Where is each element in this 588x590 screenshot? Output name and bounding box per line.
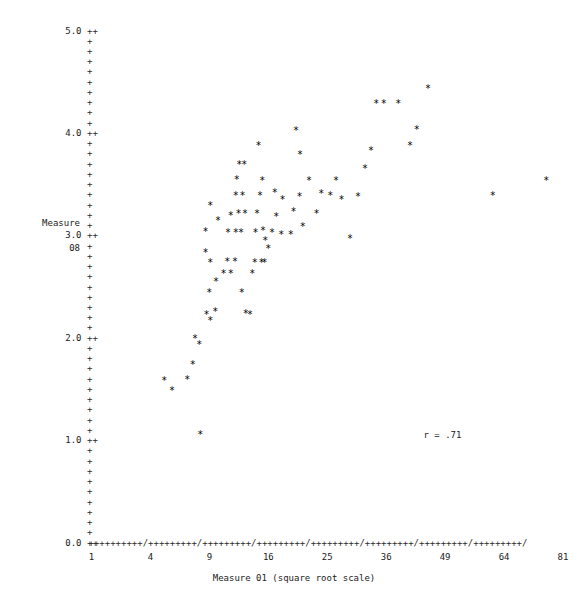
data-point: * xyxy=(368,146,374,156)
y-axis-minor-tick: + xyxy=(87,416,92,425)
y-axis-minor-tick: + xyxy=(87,78,92,87)
data-point: * xyxy=(373,99,379,109)
data-point: * xyxy=(224,257,230,267)
data-point: * xyxy=(260,226,266,236)
data-point: * xyxy=(327,191,333,201)
y-axis-minor-tick: + xyxy=(87,477,92,486)
data-point: * xyxy=(221,269,227,279)
y-axis-minor-tick: + xyxy=(87,180,92,189)
data-point: * xyxy=(293,126,299,136)
y-axis-minor-tick: + xyxy=(87,313,92,322)
data-point: * xyxy=(207,258,213,268)
data-point: * xyxy=(232,257,238,267)
y-axis-minor-tick: + xyxy=(87,323,92,332)
data-point: * xyxy=(381,99,387,109)
data-point: * xyxy=(272,188,278,198)
x-axis-title: Measure 01 (square root scale) xyxy=(0,574,588,583)
data-point: * xyxy=(184,375,190,385)
y-axis-minor-tick: + xyxy=(87,262,92,271)
x-axis-tick-label: 1 xyxy=(72,553,112,562)
y-axis-minor-tick: + xyxy=(87,190,92,199)
data-point: * xyxy=(238,228,244,238)
data-point: * xyxy=(347,234,353,244)
data-point: * xyxy=(213,277,219,287)
y-axis-minor-tick: + xyxy=(87,119,92,128)
data-point: * xyxy=(235,209,241,219)
y-axis-tick-label: 2.0 xyxy=(30,334,82,343)
y-axis-minor-tick: + xyxy=(87,242,92,251)
y-axis-major-tick: ++ xyxy=(87,27,98,36)
data-point: * xyxy=(257,191,263,201)
x-axis-tick-label: 49 xyxy=(425,553,465,562)
data-point: * xyxy=(228,269,234,279)
x-axis-tick-label: 64 xyxy=(484,553,524,562)
data-point: * xyxy=(259,176,265,186)
y-axis-major-tick: ++ xyxy=(87,436,98,445)
x-axis-tick-label: 4 xyxy=(130,553,170,562)
y-axis-minor-tick: + xyxy=(87,518,92,527)
correlation-annotation: r = .71 xyxy=(424,431,462,440)
data-point: * xyxy=(278,230,284,240)
y-axis-minor-tick: + xyxy=(87,364,92,373)
data-point: * xyxy=(306,176,312,186)
data-point: * xyxy=(207,316,213,326)
data-point: * xyxy=(202,227,208,237)
y-axis-minor-tick: + xyxy=(87,57,92,66)
y-axis-minor-tick: + xyxy=(87,88,92,97)
data-point: * xyxy=(207,201,213,211)
x-axis: ++++++++++/+++++++++/+++++++++/+++++++++… xyxy=(89,539,528,548)
data-point: * xyxy=(233,191,239,201)
data-point: * xyxy=(206,288,212,298)
y-axis-tick-label: 0.0 xyxy=(30,539,82,548)
data-point: * xyxy=(228,211,234,221)
y-axis-minor-tick: + xyxy=(87,139,92,148)
data-point: * xyxy=(425,84,431,94)
x-axis-tick-label: 81 xyxy=(543,553,583,562)
data-point: * xyxy=(252,258,258,268)
y-axis-minor-tick: + xyxy=(87,395,92,404)
data-point: * xyxy=(212,307,218,317)
data-point: * xyxy=(313,209,319,219)
data-point: * xyxy=(297,150,303,160)
data-point: * xyxy=(280,195,286,205)
y-axis-tick-label: 4.0 xyxy=(30,129,82,138)
y-axis-minor-tick: + xyxy=(87,528,92,537)
data-point: * xyxy=(196,340,202,350)
y-axis-minor-tick: + xyxy=(87,467,92,476)
y-axis-minor-tick: + xyxy=(87,354,92,363)
data-point: * xyxy=(262,258,268,268)
data-point: * xyxy=(256,141,262,151)
scatter-plot-canvas: Measure 08 ++5.0+++++++++++4.0++++++++++… xyxy=(0,0,588,590)
data-point: * xyxy=(395,99,401,109)
x-axis-tick-label: 36 xyxy=(366,553,406,562)
y-axis-minor-tick: + xyxy=(87,108,92,117)
data-point: * xyxy=(265,244,271,254)
data-point: * xyxy=(197,430,203,440)
y-axis-minor-tick: + xyxy=(87,67,92,76)
y-axis-minor-tick: + xyxy=(87,201,92,210)
data-point: * xyxy=(269,228,275,238)
y-axis-minor-tick: + xyxy=(87,487,92,496)
data-point: * xyxy=(252,228,258,238)
x-axis-tick-label: 9 xyxy=(189,553,229,562)
data-point: * xyxy=(288,230,294,240)
data-point: * xyxy=(318,189,324,199)
data-point: * xyxy=(234,175,240,185)
y-axis-minor-tick: + xyxy=(87,457,92,466)
data-point: * xyxy=(273,212,279,222)
y-axis-minor-tick: + xyxy=(87,498,92,507)
data-point: * xyxy=(407,141,413,151)
data-point: * xyxy=(225,228,231,238)
y-axis-minor-tick: + xyxy=(87,252,92,261)
y-axis-minor-tick: + xyxy=(87,149,92,158)
data-point: * xyxy=(362,164,368,174)
data-point: * xyxy=(240,191,246,201)
y-axis-major-tick: ++ xyxy=(87,231,98,240)
y-axis-minor-tick: + xyxy=(87,344,92,353)
data-point: * xyxy=(169,386,175,396)
data-point: * xyxy=(355,192,361,202)
y-axis-minor-tick: + xyxy=(87,405,92,414)
data-point: * xyxy=(333,176,339,186)
data-point: * xyxy=(215,216,221,226)
y-axis-major-tick: ++ xyxy=(87,334,98,343)
